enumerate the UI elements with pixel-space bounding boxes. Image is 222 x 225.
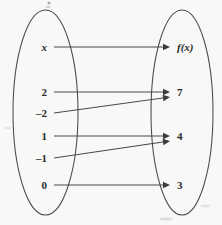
function-mapping-diagram: x2–21–10f(x)743: [0, 0, 222, 225]
mapping-line-–2-to-7: [54, 98, 165, 113]
paper-speck: [46, 6, 51, 8]
range-element-label-3: 3: [177, 179, 183, 191]
arrow-head-x-to-f(x): [163, 44, 170, 50]
domain-element-label-2: –2: [35, 107, 48, 119]
element-labels-group: x2–21–10f(x)743: [35, 41, 194, 191]
domain-element-label-5: 0: [42, 179, 48, 191]
paper-speck: [5, 127, 11, 129]
range-element-label-1: 7: [177, 86, 183, 98]
paper-speck: [48, 2, 51, 5]
diagram-canvas: x2–21–10f(x)743: [0, 0, 222, 225]
domain-element-label-3: 1: [42, 130, 48, 142]
arrow-head-1-to-4: [163, 133, 170, 139]
domain-element-label-4: –1: [35, 152, 47, 164]
range-element-label-0: f(x): [177, 41, 194, 54]
range-element-label-2: 4: [177, 130, 183, 142]
mapping-line-–1-to-4: [54, 142, 165, 158]
domain-element-label-0: x: [41, 41, 48, 53]
arrow-head-–1-to-4: [163, 139, 170, 145]
domain-element-label-1: 2: [42, 86, 48, 98]
arrow-head-–2-to-7: [163, 95, 170, 101]
arrow-head-0-to-3: [163, 182, 170, 188]
mapping-arrows-group: [54, 44, 170, 188]
paper-speck: [200, 205, 210, 208]
paper-speck: [159, 217, 173, 220]
arrow-head-2-to-7: [163, 89, 170, 95]
